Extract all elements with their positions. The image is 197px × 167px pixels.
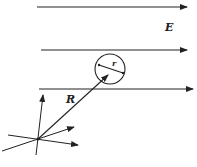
sphere-diameter: [99, 65, 123, 73]
diameter-endpoint-left: [98, 64, 100, 66]
origin: [37, 138, 40, 141]
field-label-E: E: [164, 21, 174, 34]
radius-label-r: r: [112, 58, 117, 68]
position-label-R: R: [65, 93, 75, 106]
diagram-canvas: E r R: [0, 0, 197, 167]
axis-vertical: [36, 95, 43, 155]
position-vector-R: [38, 75, 108, 139]
axis-horizontal: [8, 135, 78, 145]
diameter-endpoint-right: [122, 72, 124, 74]
